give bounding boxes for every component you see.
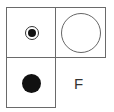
hollow-circle-icon: [61, 13, 101, 53]
cell-label: F: [74, 75, 83, 93]
target-dot-icon: [28, 29, 36, 37]
filled-dot-icon: [22, 74, 41, 93]
